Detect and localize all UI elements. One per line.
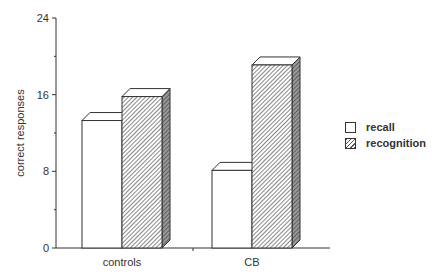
- legend-label-recognition: recognition: [366, 137, 426, 149]
- legend-label-recall: recall: [366, 121, 395, 133]
- bar-recognition-cb: [252, 57, 300, 248]
- legend-item-recall: recall: [345, 119, 426, 135]
- legend-item-recognition: recognition: [345, 135, 426, 151]
- x-category-label: controls: [103, 256, 142, 268]
- legend: recall recognition: [345, 119, 426, 151]
- recall-swatch-icon: [345, 122, 356, 133]
- recognition-swatch-icon: [345, 138, 356, 149]
- x-category-label: CB: [244, 256, 259, 268]
- y-tick-label: 24: [37, 12, 49, 24]
- y-axis-label: correct responses: [14, 89, 26, 177]
- y-tick-label: 16: [37, 89, 49, 101]
- y-tick-label: 0: [43, 242, 49, 254]
- bars: controlsCB: [82, 57, 300, 268]
- bar-recognition-controls: [122, 89, 170, 248]
- y-tick-label: 8: [43, 165, 49, 177]
